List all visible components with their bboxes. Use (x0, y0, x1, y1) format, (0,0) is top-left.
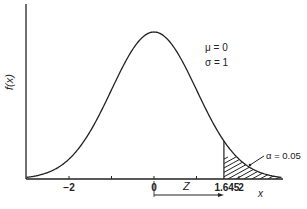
alpha-leader-dot (249, 164, 252, 167)
x-tick-label: 2 (238, 182, 244, 193)
hatch-line (228, 157, 268, 179)
hatch-line (196, 157, 236, 179)
sigma-annotation: σ = 1 (205, 57, 229, 68)
hatch-line (212, 157, 252, 179)
hatch-line (300, 157, 307, 179)
density-curve (27, 32, 282, 177)
hatch-line (172, 157, 212, 179)
hatch-line (180, 157, 220, 179)
hatch-line (164, 157, 204, 179)
normal-distribution-chart: −201.6452 f(x) x μ = 0 σ = 1 α = 0.05 Z (0, 0, 307, 209)
y-axis-label: f(x) (3, 74, 15, 90)
x-axis-label: x (257, 188, 264, 199)
z-label: Z (182, 180, 191, 192)
mu-annotation: μ = 0 (205, 42, 228, 53)
x-tick-label: −2 (63, 182, 75, 193)
hatch-line (188, 157, 228, 179)
x-tick-label: 1.645 (214, 182, 239, 193)
alpha-leader-line (250, 156, 264, 165)
alpha-annotation: α = 0.05 (266, 150, 301, 161)
z-arrow-head (218, 193, 224, 197)
